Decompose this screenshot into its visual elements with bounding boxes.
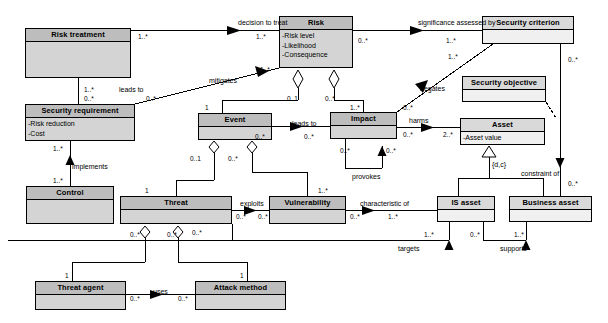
assoc-label-leads_to_left: leads to [119,86,144,94]
attr-consequence: -Consequence [282,50,350,60]
class-box-control[interactable]: Control [26,186,114,224]
class-name-attack-method: Attack method [196,282,285,295]
attr-risk-level: -Risk level [282,31,350,41]
class-name-risk: Risk [280,17,352,30]
class-name-asset: Asset [461,119,544,132]
multiplicity-m28: 1..* [318,187,328,195]
multiplicity-m26: 0..* [568,180,578,188]
class-box-risk[interactable]: Risk -Risk level -Likelihood -Consequenc… [279,16,353,68]
multiplicity-m36: 1 [65,272,69,280]
class-attrs-threat [121,210,231,211]
assoc-label-mitigates: mitigates [209,77,237,85]
multiplicity-m31: 0..* [350,213,360,221]
multiplicity-m18: 2..* [443,131,453,139]
attr-asset-value: -Asset value [463,133,542,143]
multiplicity-m22: 0..* [386,147,396,155]
assoc-label-significance: significance assessed by [418,19,495,27]
multiplicity-m24: 1..* [53,177,63,185]
class-box-business-asset[interactable]: Business asset [509,196,592,222]
class-box-impact[interactable]: Impact [330,112,397,139]
arrow-significance [410,26,424,35]
class-box-threat[interactable]: Threat [120,196,232,224]
class-name-security-requirement: Security requirement [26,105,134,118]
class-box-asset[interactable]: Asset -Asset value [460,118,545,145]
attr-likelihood: -Likelihood [282,41,350,51]
arrow-decision-to-treat [227,26,241,35]
class-attrs-is-asset [438,210,494,211]
assoc-label-targets: targets [398,245,419,253]
multiplicity-m1: 1..* [138,33,148,41]
class-attrs-threat-agent [36,295,125,296]
multiplicity-m25: 0..* [568,56,578,64]
multiplicity-m9: 1..* [448,53,458,61]
class-name-impact: Impact [331,113,396,126]
multiplicity-m33: 0..* [130,231,140,239]
multiplicity-m35: 0..* [192,229,202,237]
class-attrs-attack-method [196,295,285,296]
class-attrs-control [27,200,113,201]
class-box-is-asset[interactable]: IS asset [437,196,495,222]
class-name-security-objective: Security objective [463,77,545,90]
multiplicity-m34: 0..* [167,231,177,239]
class-attrs-impact [331,126,396,127]
multiplicity-m38: 0..* [130,295,140,303]
assoc-label-dc_constraint: {d,c} [492,161,506,169]
class-box-threat-agent[interactable]: Threat agent [35,281,126,310]
class-name-event: Event [199,114,271,127]
assoc-label-provokes: provokes [352,173,380,181]
class-box-security-requirement[interactable]: Security requirement -Risk reduction -Co… [25,104,135,141]
multiplicity-m29: 0..* [236,213,246,221]
generalization-group [482,146,496,157]
multiplicity-m40: 1..* [424,231,434,239]
class-attrs-business-asset [510,210,591,211]
multiplicity-m13: 1..* [350,104,360,112]
class-box-security-criterion[interactable]: Security criterion [482,16,574,44]
multiplicity-m11: 0..* [325,95,335,103]
multiplicity-m14: 0..* [403,104,413,112]
class-name-threat-agent: Threat agent [36,282,125,295]
class-attrs-asset: -Asset value [461,132,544,143]
class-attrs-risk-treatment [26,42,130,43]
multiplicity-m2: 1..* [256,33,266,41]
multiplicity-m6: 1..* [260,66,270,74]
class-box-risk-treatment[interactable]: Risk treatment [25,28,131,78]
class-attrs-vulnerability [270,210,345,211]
multiplicity-m15: 0..* [255,133,265,141]
assoc-label-characteristic_of: characteristic of [360,200,409,208]
multiplicity-m21: 0..* [340,147,350,155]
class-box-vulnerability[interactable]: Vulnerability [269,196,346,224]
class-attrs-event [199,127,271,128]
diamond-event-threat [209,141,219,153]
uml-class-diagram: Risk treatment Security requirement -Ris… [0,0,608,323]
assoc-label-exploits: exploits [240,200,264,208]
multiplicity-m37: 1 [240,272,244,280]
diamond-threat-agent [140,226,150,238]
assoc-label-harms: harms [409,117,428,125]
class-box-attack-method[interactable]: Attack method [195,281,286,310]
multiplicity-m12: 1 [205,104,209,112]
multiplicity-m39: 0..* [178,295,188,303]
diamond-risk-impact [329,70,339,88]
diamond-event-vuln [247,141,257,153]
multiplicity-m27: 1 [145,187,149,195]
attr-risk-reduction: -Risk reduction [28,119,132,129]
class-name-is-asset: IS asset [438,197,494,210]
generalization-triangle-asset [482,146,496,157]
multiplicity-m42: 1..* [514,231,524,239]
multiplicity-m41: 0..* [470,231,480,239]
assoc-label-implements: implements [72,163,108,171]
multiplicity-m5: 0..* [146,95,156,103]
multiplicity-m20: 0..* [228,155,238,163]
multiplicity-m17: 0..* [403,131,413,139]
class-box-security-objective[interactable]: Security objective [462,76,546,102]
assoc-label-constraint_of: constraint of [521,170,559,178]
diamond-risk-event [293,70,303,88]
multiplicity-m7: 0..* [358,37,368,45]
class-name-control: Control [27,187,113,200]
multiplicity-m8: 1..* [446,37,456,45]
class-attrs-security-requirement: -Risk reduction -Cost [26,118,134,138]
assoc-label-leads_to_mid: leads to [292,120,317,128]
arrow-targets [445,240,454,250]
class-attrs-security-criterion [483,30,573,31]
multiplicity-m32: 1..* [388,213,398,221]
